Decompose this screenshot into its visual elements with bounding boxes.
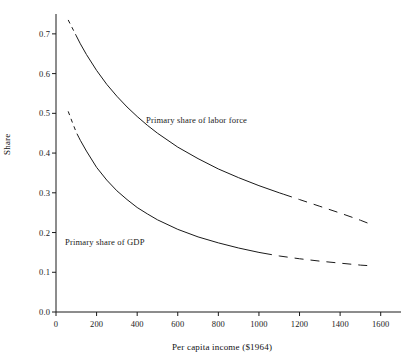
y-tick-label: 0.4 — [18, 148, 50, 158]
y-tick-label: 0.2 — [18, 228, 50, 238]
x-tick-label: 1200 — [291, 319, 308, 329]
x-tick-label: 600 — [171, 319, 184, 329]
x-tick-label: 1000 — [250, 319, 267, 329]
x-tick-label: 800 — [212, 319, 225, 329]
series-line-labor-force-tail-dashed — [283, 194, 370, 224]
chart-plot-area — [0, 0, 407, 358]
y-axis-title: Share — [2, 134, 12, 156]
y-tick-label: 0.7 — [18, 29, 50, 39]
x-tick-label: 400 — [131, 319, 144, 329]
x-axis-title: Per capita income ($1964) — [172, 342, 272, 352]
x-tick-label: 1600 — [372, 319, 389, 329]
y-tick-marks — [52, 34, 56, 312]
y-tick-label: 0.5 — [18, 108, 50, 118]
y-tick-label: 0.6 — [18, 69, 50, 79]
x-tick-label: 1400 — [331, 319, 348, 329]
series-paths — [68, 20, 372, 266]
series-annotation-gdp: Primary share of GDP — [65, 237, 145, 247]
series-line-labor-force-head-dashed — [68, 20, 76, 36]
series-annotation-labor-force: Primary share of labor force — [146, 115, 247, 125]
series-line-gdp-head-dashed — [68, 111, 79, 137]
x-tick-label: 0 — [54, 319, 58, 329]
chart-figure: 0.00.10.20.30.40.50.60.7 020040060080010… — [0, 0, 407, 358]
series-line-gdp-tail-dashed — [263, 253, 373, 266]
y-tick-label: 0.3 — [18, 188, 50, 198]
x-tick-marks — [56, 312, 381, 316]
series-line-gdp-solid — [79, 137, 263, 253]
axis-lines — [56, 14, 401, 312]
y-tick-label: 0.1 — [18, 267, 50, 277]
y-tick-label: 0.0 — [18, 307, 50, 317]
x-tick-label: 200 — [90, 319, 103, 329]
